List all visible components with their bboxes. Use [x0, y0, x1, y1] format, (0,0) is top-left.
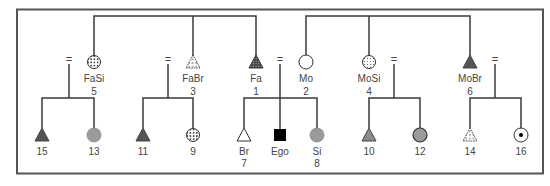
male-dotted-icon — [463, 128, 477, 141]
marriage-symbol: = — [165, 53, 171, 65]
node-14: 14 — [463, 128, 477, 157]
node-number: 15 — [36, 146, 48, 157]
node-13: 13 — [87, 128, 101, 157]
male-dark-dotted-icon — [249, 55, 263, 68]
marriage-symbol: = — [391, 53, 397, 65]
node-mobr: MoBr 6 — [458, 55, 483, 97]
node-mosi: MoSi 4 — [358, 56, 381, 98]
node-number: 5 — [91, 86, 97, 97]
node-label: Br — [239, 146, 250, 157]
female-gray-icon — [87, 128, 101, 142]
male-dark-icon — [35, 128, 49, 141]
node-number: 11 — [138, 146, 149, 157]
node-label: MoBr — [458, 73, 483, 84]
node-number: 14 — [464, 146, 476, 157]
female-grid-icon — [363, 56, 376, 69]
node-number: 4 — [366, 86, 372, 97]
ego-square-icon — [274, 129, 286, 141]
node-label: Ego — [271, 146, 289, 157]
node-number: 10 — [363, 146, 375, 157]
female-gray-icon — [310, 128, 324, 142]
marriage-symbol: = — [492, 53, 498, 65]
node-label: Mo — [299, 73, 313, 84]
male-dark-icon — [463, 55, 477, 68]
kinship-diagram: = = = = = FaSi 5 FaBr 3 Fa 1 Mo 2 MoSi 4… — [0, 0, 550, 186]
node-number: 9 — [190, 146, 196, 157]
descent-lines — [42, 64, 521, 131]
node-br: Br 7 — [237, 128, 251, 169]
node-mo: Mo 2 — [299, 55, 313, 97]
marriage-symbols: = = = = = — [66, 53, 498, 65]
node-number: 1 — [253, 86, 259, 97]
female-dotted-icon — [88, 56, 101, 69]
node-number: 16 — [515, 146, 527, 157]
node-number: 2 — [303, 86, 309, 97]
node-ego: Ego — [271, 129, 289, 157]
node-number: 3 — [190, 86, 196, 97]
node-11: 11 — [136, 128, 150, 157]
male-gray-icon — [362, 128, 376, 141]
node-9: 9 — [187, 129, 200, 158]
node-number: 7 — [241, 158, 247, 169]
male-dark-icon — [136, 128, 150, 141]
center-dot-icon — [519, 133, 523, 137]
node-label: FaSi — [84, 73, 105, 84]
female-gray-outlined-icon — [413, 128, 427, 142]
node-fasi: FaSi 5 — [84, 56, 105, 98]
node-15: 15 — [35, 128, 49, 157]
node-number: 6 — [467, 86, 473, 97]
sibling-connectors-top — [94, 16, 470, 57]
node-label: FaBr — [182, 73, 204, 84]
node-number: 13 — [88, 146, 100, 157]
node-si: Si 8 — [310, 128, 324, 169]
node-12: 12 — [413, 128, 427, 157]
node-label: MoSi — [358, 73, 381, 84]
node-number: 12 — [414, 146, 426, 157]
male-dotted-icon — [186, 55, 200, 68]
node-10: 10 — [362, 128, 376, 157]
male-empty-icon — [237, 128, 251, 141]
female-dotted-icon — [187, 129, 200, 142]
marriage-symbol: = — [66, 53, 72, 65]
node-fabr: FaBr 3 — [182, 55, 204, 97]
node-16: 16 — [514, 128, 528, 157]
female-empty-icon — [299, 55, 313, 69]
node-label: Si — [313, 146, 322, 157]
node-label: Fa — [250, 73, 262, 84]
node-number: 8 — [314, 158, 320, 169]
node-fa: Fa 1 — [249, 55, 263, 97]
marriage-symbol: = — [277, 53, 283, 65]
